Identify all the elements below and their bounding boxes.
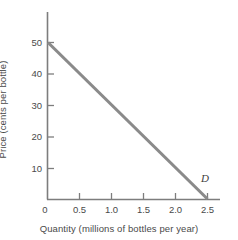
- y-tick-label-10: 10: [20, 164, 42, 174]
- y-tick-label-50: 50: [20, 38, 42, 48]
- y-tick-label-20: 20: [20, 132, 42, 142]
- x-tick-label-2-5: 2.5: [201, 205, 214, 215]
- x-tick-label-0-5: 0.5: [73, 205, 86, 215]
- x-tick-marks: [80, 193, 208, 199]
- x-tick-label-1-5: 1.5: [137, 205, 150, 215]
- y-axis-title: Price (cents per bottle): [0, 61, 8, 159]
- y-tick-label-30: 30: [20, 101, 42, 111]
- x-tick-label-0: 0: [42, 205, 47, 215]
- demand-curve-chart: 50 40 30 20 10 0 0.5 1.0 1.5 2.0 2.5 D Q…: [0, 0, 238, 240]
- x-axis-title: Quantity (millions of bottles per year): [40, 223, 199, 234]
- demand-curve-label: D: [201, 173, 209, 184]
- y-tick-label-40: 40: [20, 69, 42, 79]
- x-tick-label-2-0: 2.0: [169, 205, 182, 215]
- demand-curve-line: [48, 43, 208, 200]
- x-tick-label-1-0: 1.0: [105, 205, 118, 215]
- y-tick-marks: [48, 43, 54, 169]
